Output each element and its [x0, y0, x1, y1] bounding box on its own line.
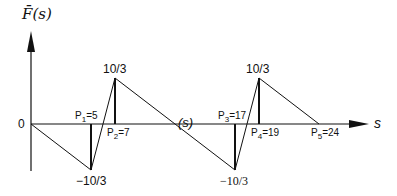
- point-label-p1: P1=5: [75, 111, 98, 124]
- origin-label: 0: [18, 118, 25, 130]
- segment-0-5: [31, 124, 91, 170]
- point-label-p2: P2=7: [107, 128, 130, 141]
- diagram-graphics: [0, 0, 397, 196]
- middle-axis-label: (s): [178, 116, 193, 129]
- x-axis-label: s: [374, 116, 381, 130]
- point-label-p4: P4=19: [251, 128, 279, 141]
- y-axis-arrow-icon: [27, 31, 35, 52]
- point-label-p5: P5=24: [311, 128, 339, 141]
- trough-label-2: −10/3: [220, 175, 248, 187]
- peak-label-2: 10/3: [246, 63, 269, 75]
- segment-19-24: [259, 78, 319, 124]
- x-axis-arrow-icon: [349, 120, 369, 128]
- peak-label-1: 10/3: [103, 63, 126, 75]
- influence-line-diagram: F̄(s) 0 s (s) 10/3 10/3 −10/3 −10/3 P1=5…: [0, 0, 397, 196]
- point-label-p3: P3=17: [218, 111, 246, 124]
- trough-label-1: −10/3: [76, 175, 106, 187]
- y-axis-label: F̄(s): [22, 7, 52, 22]
